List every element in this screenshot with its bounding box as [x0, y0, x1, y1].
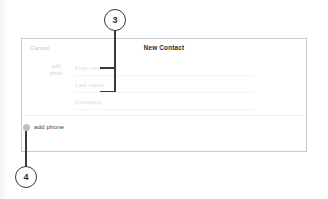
annotation-callout-4: 4 [15, 166, 37, 188]
field-underline [75, 109, 255, 110]
field-first-name[interactable]: First name [75, 61, 255, 78]
callout-3-leader-arm-top [100, 67, 116, 69]
add-photo-button[interactable]: add photo [42, 63, 70, 76]
company-placeholder: Company [75, 98, 102, 106]
callout-3-leader-stem [114, 30, 116, 92]
add-phone-button[interactable]: add phone [23, 123, 64, 131]
card-header: Cancel New Contact [22, 39, 306, 60]
annotated-screenshot-page: Cancel New Contact add photo First name … [0, 0, 328, 199]
page-title: New Contact [22, 43, 306, 52]
annotation-callout-3: 3 [104, 9, 126, 31]
field-last-name[interactable]: Last name [75, 78, 255, 95]
callout-4-leader-stem [25, 131, 27, 167]
contact-form-fields: First name Last name Company [75, 61, 255, 112]
page-edge-shading [0, 0, 9, 199]
callout-3-leader-arm-bottom [100, 91, 116, 93]
add-photo-line-2: photo [42, 70, 70, 77]
field-company[interactable]: Company [75, 95, 255, 112]
field-underline [75, 92, 255, 93]
last-name-placeholder: Last name [75, 81, 104, 89]
field-underline [75, 75, 255, 76]
new-contact-card: Cancel New Contact add photo First name … [21, 38, 307, 152]
add-circle-icon [23, 124, 30, 131]
add-phone-label: add phone [34, 123, 64, 131]
footer-divider [22, 115, 306, 116]
